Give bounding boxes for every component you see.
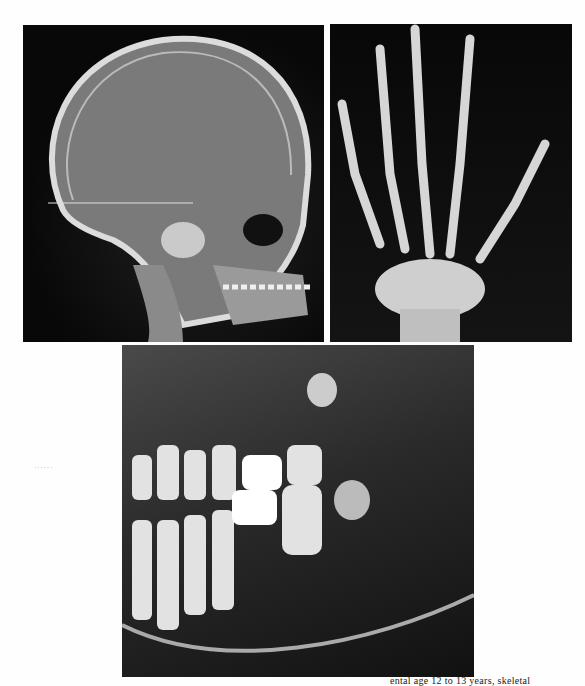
margin-mark: ......	[34, 460, 54, 470]
hand-radiograph-panel	[330, 24, 572, 342]
skull-radiograph-panel	[23, 25, 324, 342]
panoramic-radiograph-panel: R	[122, 345, 474, 677]
dentition-illustration	[122, 345, 474, 677]
figure-caption: ental age 12 to 13 years, skeletal	[390, 675, 530, 686]
skull-illustration	[23, 25, 324, 342]
hand-illustration	[330, 24, 572, 342]
